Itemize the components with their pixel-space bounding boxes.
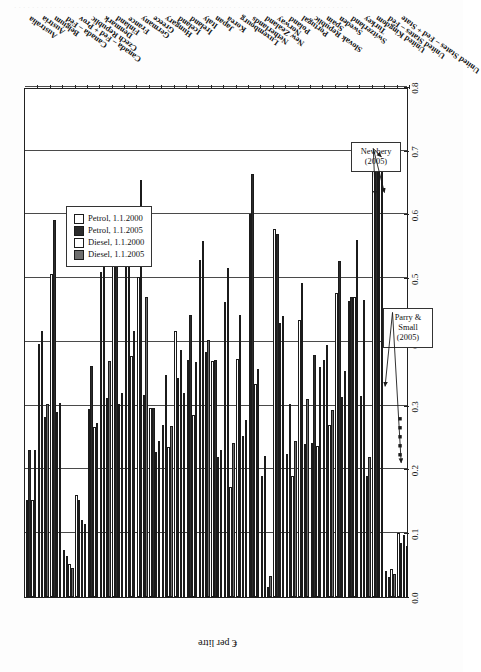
figure: € per litre 0.00.10.20.30.40.50.60.70.8 … [16, 18, 448, 654]
legend-item: Diesel, 1.1.2005 [74, 249, 144, 260]
value-tick-label: 0.2 [410, 465, 420, 476]
bar [316, 446, 318, 597]
bar [294, 441, 296, 597]
legend-swatch-diesel_2000 [74, 237, 84, 247]
bar [325, 345, 327, 597]
legend-label: Petrol, 1.1.2005 [88, 225, 143, 236]
bar-group [124, 89, 136, 597]
bar [232, 443, 234, 597]
bar [108, 361, 110, 597]
bar [269, 576, 271, 597]
bar [157, 441, 159, 597]
bar [117, 404, 119, 597]
bar [260, 476, 262, 597]
bar [127, 222, 129, 597]
bar [335, 293, 337, 597]
bar [378, 157, 380, 597]
bar [368, 457, 370, 597]
bar-group [62, 89, 74, 597]
bar [248, 215, 250, 598]
bar [303, 444, 305, 597]
annotation-line: (2005) [357, 157, 395, 167]
bar [322, 360, 324, 597]
bar [58, 403, 60, 597]
bar-group [272, 89, 284, 597]
value-tick-label: 0.6 [410, 210, 420, 221]
bar [306, 399, 308, 597]
bar [152, 408, 154, 597]
bar [328, 425, 330, 597]
bar-group [322, 89, 334, 597]
bar-group [86, 89, 98, 597]
bar [281, 317, 283, 598]
bar [343, 371, 345, 597]
bar [99, 272, 101, 597]
annotation-line: Newbery [357, 147, 395, 157]
bar [83, 524, 85, 597]
bar [318, 368, 320, 598]
bar [50, 274, 52, 597]
bar-group [99, 89, 111, 597]
value-tick-mark [404, 533, 409, 534]
plot-area [24, 88, 408, 598]
bar [365, 476, 367, 597]
bar [77, 500, 79, 597]
annotation-line: Small [389, 323, 427, 333]
bar [137, 277, 139, 597]
bar-group [247, 89, 259, 597]
bar [43, 417, 45, 597]
bar [285, 454, 287, 597]
bar [201, 241, 203, 597]
bar [397, 533, 399, 597]
bar [46, 404, 48, 597]
bar [347, 301, 349, 597]
bar [313, 355, 315, 597]
bar [142, 395, 144, 597]
bar [229, 487, 231, 597]
value-tick-label: 0.5 [410, 274, 420, 285]
bar-group [136, 89, 148, 597]
bar [390, 569, 392, 597]
bar [405, 546, 407, 597]
bar [350, 297, 352, 597]
bar-group [111, 89, 123, 597]
bar [53, 220, 55, 597]
bar-group [49, 89, 61, 597]
legend: Petrol, 1.1.2000Petrol, 1.1.2005Diesel, … [66, 206, 152, 267]
bar-group [285, 89, 297, 597]
bar-group [223, 89, 235, 597]
bar-group [173, 89, 185, 597]
axis-title: € per litre [16, 634, 448, 654]
bar [130, 356, 132, 597]
bar-group [186, 89, 198, 597]
bar-group [37, 89, 49, 597]
bar [211, 361, 213, 597]
bar-group [235, 89, 247, 597]
bar [192, 415, 194, 597]
bar [372, 157, 374, 597]
bar-group [161, 89, 173, 597]
bar [340, 397, 342, 597]
bar-group [210, 89, 222, 597]
bar [87, 409, 89, 597]
bar [71, 568, 73, 597]
bar [291, 476, 293, 597]
bar [207, 340, 209, 597]
value-tick-mark [404, 278, 409, 279]
bar [68, 564, 70, 597]
bar [236, 359, 238, 597]
bar [164, 375, 166, 597]
bar [25, 500, 27, 597]
bar [360, 396, 362, 597]
bar [331, 410, 333, 597]
bar [387, 577, 389, 597]
bar [400, 543, 402, 597]
bar [263, 456, 265, 597]
annotation-line: Parry & [389, 313, 427, 323]
bar [95, 423, 97, 597]
bar [241, 436, 243, 597]
legend-label: Petrol, 1.1.2000 [88, 213, 143, 224]
bar [278, 323, 280, 597]
value-tick-mark [404, 215, 409, 216]
bar [55, 412, 57, 597]
